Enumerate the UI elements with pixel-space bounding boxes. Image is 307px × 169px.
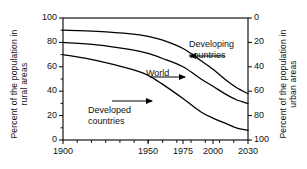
y-axis-ticks-right <box>248 18 252 140</box>
y-tick-label-right: 60 <box>254 85 280 95</box>
x-axis-ticks <box>63 140 248 144</box>
annotation-world-line1: World <box>146 68 169 79</box>
annotation-arrows <box>112 56 225 101</box>
x-tick-label: 2030 <box>228 146 268 156</box>
x-tick-label: 1900 <box>43 146 83 156</box>
y-tick-label-right: 100 <box>254 134 280 144</box>
annotation-developing-line2: countries <box>189 50 234 61</box>
y-tick-label-left: 60 <box>33 61 57 71</box>
y-tick-label-left: 20 <box>33 110 57 120</box>
annotation-developed-line2: countries <box>88 116 131 127</box>
y-tick-label-right: 20 <box>254 36 280 46</box>
annotation-developed-line1: Developed <box>88 105 131 116</box>
y-tick-label-left: 40 <box>33 85 57 95</box>
annotation-developing-line1: Developing <box>189 39 234 50</box>
annotation-world: World <box>146 68 169 79</box>
chart-figure: Percent of the population in rural areas… <box>0 0 307 169</box>
y-tick-label-left: 100 <box>33 12 57 22</box>
x-tick-label: 2000 <box>193 146 233 156</box>
y-axis-ticks-left <box>59 18 63 140</box>
y-tick-label-right: 40 <box>254 61 280 71</box>
y-tick-label-right: 80 <box>254 110 280 120</box>
annotation-developing-countries: Developing countries <box>189 39 234 60</box>
y-tick-label-right: 0 <box>254 12 280 22</box>
annotation-developed-countries: Developed countries <box>88 105 131 126</box>
y-tick-label-left: 0 <box>33 134 57 144</box>
y-tick-label-left: 80 <box>33 36 57 46</box>
